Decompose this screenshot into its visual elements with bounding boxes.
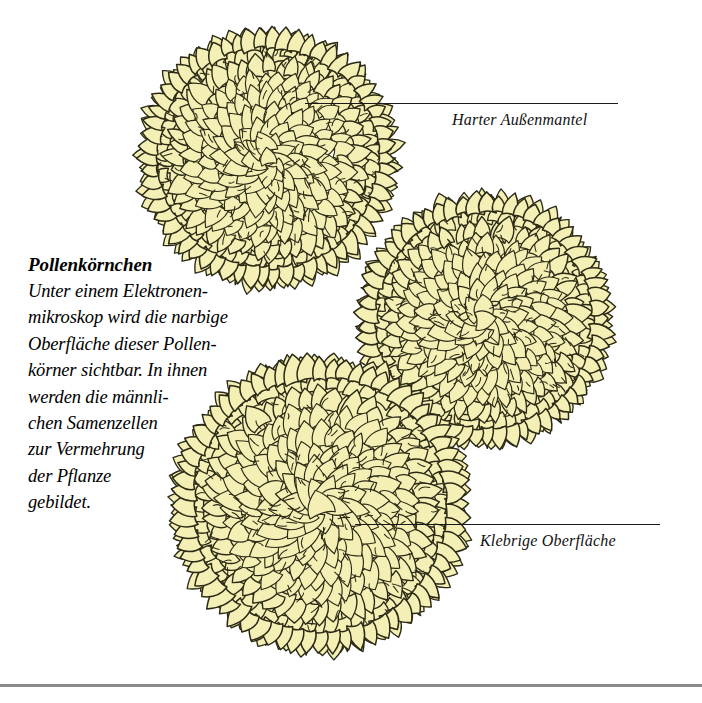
caption-line: mikroskop wird die narbige [28,304,258,330]
pollen-illustration-page: Pollenkörnchen Unter einem Elektronen- m… [0,0,702,703]
caption-line: Oberfläche dieser Pollen- [28,331,258,357]
caption-title: Pollenkörnchen [28,252,258,277]
caption-body: Unter einem Elektronen- mikroskop wird d… [28,278,258,516]
caption-line: zur Vermehrung [28,436,258,462]
leader-line [305,103,618,104]
bottom-divider-rule [0,684,702,687]
callout-label: Klebrige Oberfläche [480,531,616,551]
caption-line: der Pflanze [28,463,258,489]
callout-label: Harter Außenmantel [452,110,587,130]
leader-line [355,524,660,525]
caption-line: chen Samenzellen [28,410,258,436]
caption-line: gebildet. [28,489,258,515]
caption-line: werden die männli- [28,384,258,410]
caption-line: Unter einem Elektronen- [28,278,258,304]
caption-block: Pollenkörnchen Unter einem Elektronen- m… [28,252,258,516]
caption-line: körner sichtbar. In ihnen [28,357,258,383]
